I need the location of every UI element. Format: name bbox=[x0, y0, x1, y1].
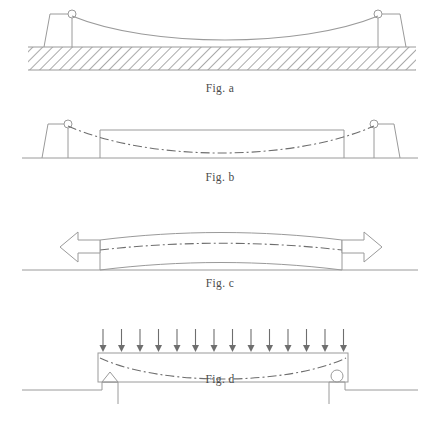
figure-a bbox=[28, 10, 416, 70]
figure-c-caption: Fig. c bbox=[0, 277, 440, 289]
figure-b bbox=[22, 120, 418, 158]
load-arrow bbox=[322, 329, 329, 352]
load-arrow bbox=[266, 329, 273, 352]
figure-d bbox=[22, 329, 418, 404]
ground-hatch-band bbox=[28, 47, 416, 70]
load-arrow bbox=[155, 329, 162, 352]
tower-anchor-right bbox=[382, 14, 406, 47]
load-arrow bbox=[211, 329, 218, 352]
fig-a-right-tower bbox=[374, 10, 406, 47]
figure-c bbox=[22, 232, 418, 270]
load-arrow bbox=[192, 329, 199, 352]
load-arrow bbox=[340, 329, 347, 352]
load-arrow bbox=[285, 329, 292, 352]
tension-arrow-right-icon bbox=[342, 232, 382, 262]
load-arrow bbox=[229, 329, 236, 352]
load-arrow bbox=[137, 329, 144, 352]
tower-anchor-left bbox=[44, 14, 68, 47]
load-arrow bbox=[303, 329, 310, 352]
fig-a-left-tower bbox=[44, 10, 76, 47]
fig-c-neutral-axis-centerline bbox=[100, 243, 342, 250]
figure-a-caption: Fig. a bbox=[0, 82, 440, 94]
fig-c-cambered-beam bbox=[100, 233, 342, 271]
load-arrow bbox=[174, 329, 181, 352]
ground-right-step bbox=[329, 382, 418, 404]
load-arrow bbox=[100, 329, 107, 352]
load-arrow bbox=[118, 329, 125, 352]
beam-top-edge bbox=[100, 233, 342, 241]
load-arrow bbox=[248, 329, 255, 352]
fig-a-ground bbox=[28, 47, 416, 70]
fig-b-left-tower bbox=[42, 120, 72, 158]
engineering-figure-sheet bbox=[0, 0, 440, 425]
figure-d-caption: Fig. d bbox=[0, 373, 440, 385]
suspension-cable bbox=[72, 16, 378, 40]
fig-d-ground bbox=[22, 382, 418, 404]
tower-anchor-right bbox=[378, 124, 400, 158]
tension-arrow-left-icon bbox=[60, 232, 100, 262]
tower-anchor-left bbox=[42, 124, 64, 158]
figure-b-caption: Fig. b bbox=[0, 171, 440, 183]
ground-left-step bbox=[22, 382, 118, 404]
fig-d-distributed-load bbox=[100, 329, 348, 352]
fig-b-right-tower bbox=[370, 120, 400, 158]
fig-b-beam-outline bbox=[100, 130, 344, 158]
beam-bottom-edge bbox=[100, 263, 342, 271]
